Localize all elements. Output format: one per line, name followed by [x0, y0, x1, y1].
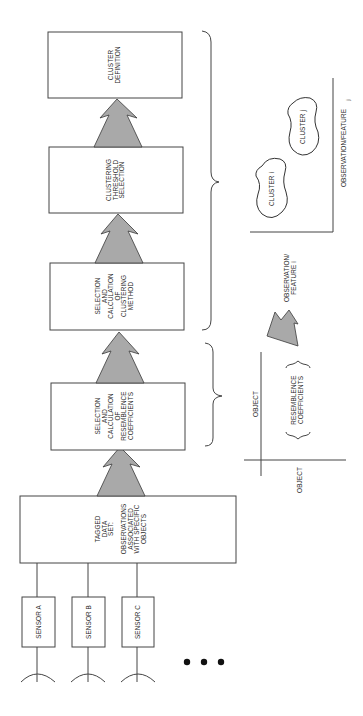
cluster-x-axis-label-line2: FEATURE i — [290, 261, 297, 294]
svg-text:DEFINITION: DEFINITION — [114, 46, 121, 83]
flow-arrow-icon — [97, 447, 145, 496]
flow-arrow-icon — [95, 214, 143, 263]
sensor-a: SENSOR A — [21, 563, 55, 682]
svg-text:SELECTION: SELECTION — [118, 161, 125, 198]
matrix-content-line2: COEFFICIENTS — [297, 376, 304, 424]
svg-text:SET:: SET: — [107, 522, 114, 536]
step-threshold-text: CLUSTERING THRESHOLD SELECTION — [105, 159, 125, 201]
clustering-process-diagram: SENSOR A SENSOR B SENSOR C TAGGED DATA S… — [0, 0, 363, 716]
flow-arrow-icon — [96, 332, 144, 383]
cluster-i-label: CLUSTER i — [268, 172, 275, 206]
cluster-plot-inset: CLUSTER i CLUSTER j OBSERVATION/ FEATURE… — [250, 78, 351, 302]
matrix-row-axis-label: OBJECT — [252, 391, 259, 417]
antenna-arc-icon — [21, 674, 55, 682]
antenna-arc-icon — [121, 674, 155, 682]
matrix-col-axis-label: OBJECT — [296, 467, 303, 493]
more-sensors-ellipsis-icon — [184, 659, 224, 665]
sensor-c-label: SENSOR C — [134, 605, 141, 639]
matrix-bracket-icon — [286, 361, 310, 368]
cluster-y-axis-subscript: j — [345, 99, 351, 101]
step-resemblance-coefficients-text: SELECTION AND CALCULATION OF RESEMBLENCE… — [94, 391, 134, 440]
matrix-bracket-icon — [286, 432, 310, 439]
sensor-a-label: SENSOR A — [35, 605, 42, 639]
svg-text:METHOD: METHOD — [127, 282, 134, 311]
brace-clustering-steps-icon — [202, 31, 219, 330]
svg-text:COEFFICIENTS: COEFFICIENTS — [127, 392, 134, 440]
sensor-b: SENSOR B — [71, 563, 105, 682]
brace-resemblance-step-icon — [205, 343, 222, 446]
inset-flow-arrow-icon — [267, 310, 298, 346]
step-cluster-definition-text: CLUSTER DEFINITION — [107, 46, 121, 83]
sensor-c: SENSOR C — [121, 563, 155, 682]
cluster-j-label: CLUSTER j — [299, 110, 307, 144]
resemblance-matrix-inset: OBJECT OBJECT RESEMBLENCE COEFFICIENTS — [244, 352, 346, 493]
flow-arrow-icon — [94, 99, 142, 147]
sensor-b-label: SENSOR B — [85, 605, 92, 639]
cluster-y-axis-label: OBSERVATION/FEATURE — [340, 109, 347, 187]
svg-text:OBJECTS: OBJECTS — [140, 514, 147, 544]
